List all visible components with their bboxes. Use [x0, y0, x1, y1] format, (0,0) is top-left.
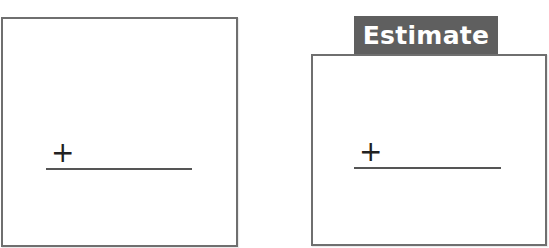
left-plus-sign: +: [51, 139, 74, 167]
right-panel: [311, 54, 547, 246]
left-answer-line: [46, 168, 192, 170]
right-answer-line: [354, 167, 501, 169]
right-plus-sign: +: [359, 138, 382, 166]
left-panel: [1, 17, 238, 247]
estimate-tab-label: Estimate: [354, 16, 498, 55]
